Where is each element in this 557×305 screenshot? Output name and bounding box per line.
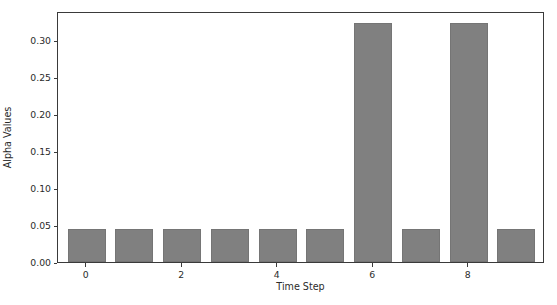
y-tick-label: 0.00	[30, 256, 51, 270]
plot-axes	[57, 12, 544, 263]
x-tick-label: 2	[178, 268, 184, 281]
y-tick-label: 0.15	[30, 145, 51, 159]
y-axis-title: Alpha Values	[0, 12, 15, 263]
bar-chart-figure: 0.000.050.100.150.200.250.30 Alpha Value…	[0, 0, 557, 305]
bar	[211, 229, 249, 262]
y-tick-label: 0.30	[30, 34, 51, 48]
y-tick-label: 0.10	[30, 182, 51, 196]
x-tick-label: 0	[83, 268, 89, 281]
x-tick-label: 4	[274, 268, 280, 281]
x-tick-mark	[85, 263, 86, 267]
y-tick-label: 0.25	[30, 71, 51, 85]
x-tick-label: 6	[369, 268, 375, 281]
y-tick-label: 0.05	[30, 219, 51, 233]
x-axis-title: Time Step	[57, 281, 544, 292]
x-tick-label: 8	[465, 268, 471, 281]
bars-container	[58, 13, 543, 262]
bar	[259, 229, 297, 262]
y-tick-label: 0.20	[30, 108, 51, 122]
bar	[354, 23, 392, 262]
bar	[68, 229, 106, 262]
x-tick-mark	[181, 263, 182, 267]
bar	[115, 229, 153, 262]
bar	[163, 229, 201, 262]
bar	[450, 23, 488, 262]
bar	[306, 229, 344, 262]
bar	[402, 229, 440, 262]
x-tick-mark	[467, 263, 468, 267]
x-tick-mark	[372, 263, 373, 267]
bar	[497, 229, 535, 262]
x-tick-mark	[276, 263, 277, 267]
